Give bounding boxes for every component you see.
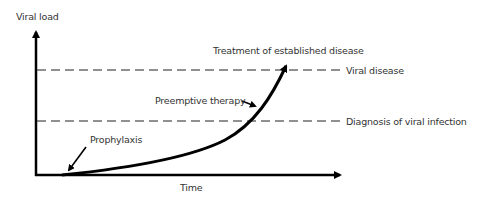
prophylaxis-annotation: Prophylaxis — [90, 134, 142, 145]
viral-disease-label: Viral disease — [346, 65, 404, 76]
preemptive-annotation: Preemptive therapy — [155, 95, 245, 106]
prophylaxis-arrow — [69, 147, 86, 170]
x-axis-label: Time — [180, 182, 202, 193]
y-axis-label: Viral load — [16, 11, 59, 22]
diagnosis-label: Diagnosis of viral infection — [346, 116, 467, 127]
viral-load-diagram: Viral load Time Treatment of established… — [0, 0, 477, 204]
treatment-annotation: Treatment of established disease — [213, 45, 364, 56]
